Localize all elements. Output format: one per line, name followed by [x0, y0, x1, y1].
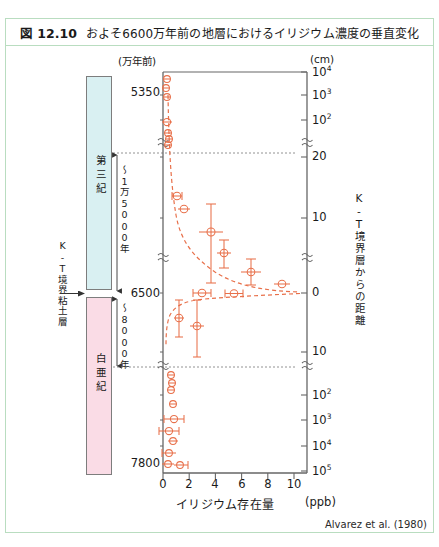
x-tick-label-5: 10 [284, 477, 304, 491]
right-axis-ticks [301, 72, 307, 471]
right-tick-label-7: 10 [312, 344, 327, 358]
right-tick-label-4: 20 [312, 149, 327, 163]
x-tick-label-3: 6 [232, 477, 252, 491]
data-point [159, 427, 179, 435]
x-tick-label-1: 2 [179, 477, 199, 491]
data-point [163, 76, 171, 83]
data-point [167, 372, 175, 379]
trend-curve-lower [166, 294, 300, 346]
data-point [164, 415, 184, 423]
right-axis-title: K-T境界層からの距離 [352, 192, 366, 327]
right-tick-label-10: 104 [312, 438, 331, 453]
figure-page: 図 12.10およそ6600万年前の地層におけるイリジウム濃度の垂直変化 第三紀… [0, 0, 439, 547]
data-point [217, 240, 231, 268]
data-point [168, 380, 176, 387]
data-point [241, 259, 261, 285]
data-point [190, 300, 204, 357]
data-point [168, 438, 178, 445]
x-axis-unit: (ppb) [305, 495, 336, 509]
data-point [163, 94, 171, 101]
data-point [167, 387, 175, 394]
data-points [159, 76, 290, 469]
right-tick-label-2: 103 [312, 87, 331, 102]
x-tick-label-4: 8 [258, 477, 278, 491]
data-point [174, 300, 184, 337]
data-point [162, 461, 174, 468]
data-point [193, 289, 211, 297]
iridium-scatter-plot [0, 0, 439, 547]
data-point [162, 449, 176, 457]
right-tick-label-9: 103 [312, 412, 331, 427]
data-point [199, 204, 223, 283]
x-axis-title: イリジウム存在量 [176, 495, 274, 512]
source-citation: Alvarez et al. (1980) [325, 519, 427, 530]
trend-curve-upper [168, 95, 300, 292]
data-point [169, 401, 177, 408]
right-tick-label-6: 0 [312, 285, 319, 299]
right-tick-label-1: 104 [312, 64, 331, 79]
data-point [174, 461, 188, 469]
x-tick-label-0: 0 [153, 477, 173, 491]
data-point [162, 85, 170, 92]
right-tick-label-3: 102 [312, 112, 331, 127]
x-tick-label-2: 4 [205, 477, 225, 491]
right-tick-label-8: 102 [312, 387, 331, 402]
right-tick-label-5: 10 [312, 210, 327, 224]
data-point [274, 280, 290, 288]
right-tick-label-11: 105 [312, 463, 331, 478]
data-point [178, 205, 190, 213]
